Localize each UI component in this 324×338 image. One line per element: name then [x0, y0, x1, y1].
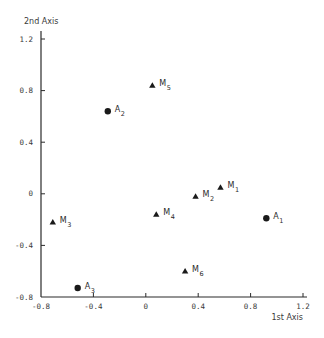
triangle-marker-icon: [153, 211, 159, 217]
y-tick-label: -0.4: [15, 241, 34, 250]
data-point-a2: A2: [105, 105, 125, 118]
data-point-m5: M5: [149, 79, 171, 92]
x-tick-label: -0.4: [84, 302, 103, 311]
data-point-m6: M6: [182, 265, 204, 278]
triangle-marker-icon: [50, 219, 56, 225]
point-label: M: [159, 79, 166, 88]
y-axis-title: 2nd Axis: [24, 17, 58, 26]
point-label-subscript: 2: [210, 195, 214, 203]
point-label-subscript: 5: [167, 84, 171, 92]
data-point-m2: M2: [192, 190, 214, 203]
x-tick-label: 1.2: [296, 302, 310, 311]
x-axis-title: 1st Axis: [271, 313, 303, 322]
data-point-m1: M1: [217, 181, 239, 194]
y-tick-label: 0: [28, 189, 33, 198]
scatter-chart: -0.8-0.400.40.81.2-0.8-0.400.40.81.22nd …: [0, 0, 324, 338]
data-point-a1: A1: [263, 212, 283, 225]
data-point-a3: A3: [74, 282, 94, 295]
axes: -0.8-0.400.40.81.2-0.8-0.400.40.81.22nd …: [15, 17, 310, 322]
y-tick-label: 0.8: [19, 86, 33, 95]
triangle-marker-icon: [182, 268, 188, 274]
data-point-m4: M4: [153, 208, 175, 221]
triangle-marker-icon: [192, 193, 198, 199]
y-tick-label: -0.8: [15, 293, 34, 302]
circle-marker-icon: [105, 108, 111, 114]
point-label-subscript: 4: [171, 213, 175, 221]
point-label: M: [163, 208, 170, 217]
x-tick-label: 0.8: [244, 302, 258, 311]
triangle-marker-icon: [149, 82, 155, 88]
point-label-subscript: 3: [67, 221, 71, 229]
circle-marker-icon: [74, 285, 80, 291]
point-label: M: [203, 190, 210, 199]
point-label-subscript: 1: [279, 217, 283, 225]
point-label-subscript: 6: [200, 270, 204, 278]
circle-marker-icon: [263, 215, 269, 221]
data-points: A1A2A3M1M2M3M4M5M6: [50, 79, 284, 295]
y-tick-label: 0.4: [19, 138, 33, 147]
x-tick-label: 0: [144, 302, 149, 311]
point-label-subscript: 3: [91, 287, 95, 295]
point-label: M: [192, 265, 199, 274]
y-tick-label: 1.2: [19, 35, 33, 44]
point-label-subscript: 1: [235, 186, 239, 194]
x-tick-label: -0.8: [32, 302, 51, 311]
x-tick-label: 0.4: [191, 302, 205, 311]
point-label-subscript: 2: [121, 110, 125, 118]
triangle-marker-icon: [217, 184, 223, 190]
point-label: M: [60, 216, 67, 225]
data-point-m3: M3: [50, 216, 72, 229]
point-label: M: [227, 181, 234, 190]
